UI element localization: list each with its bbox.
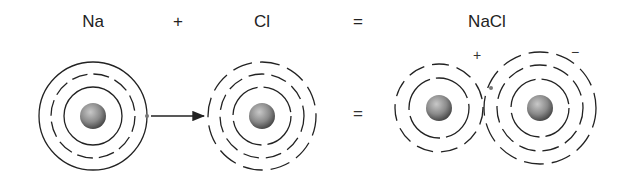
chlorine-nucleus <box>249 103 275 129</box>
chloride-ion-nucleus <box>527 95 553 121</box>
atoms-svg <box>0 0 623 192</box>
chloride-ion <box>484 52 596 164</box>
sodium-nucleus <box>80 103 106 129</box>
sodium-ion-nucleus <box>426 95 452 121</box>
sodium-atom <box>39 62 147 170</box>
sodium-valence-electron <box>145 114 149 118</box>
transferred-electron <box>489 86 493 90</box>
sodium-ion <box>395 64 483 152</box>
ionic-bond-diagram: Na + Cl = NaCl = + − <box>0 0 623 192</box>
chlorine-atom <box>208 62 316 170</box>
